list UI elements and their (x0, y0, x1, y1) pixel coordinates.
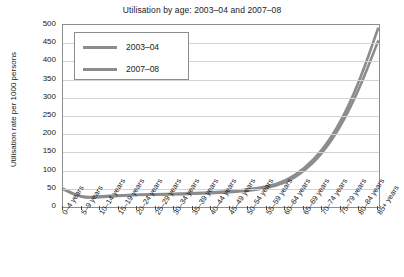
chart-figure: Utilisation by age: 2003–04 and 2007–08 … (0, 0, 404, 277)
chart-legend: 2003–042007–08 (74, 32, 189, 80)
legend-item[interactable]: 2003–04 (83, 39, 159, 55)
x-axis-tick-labels: 0–4 years5–9 years10–14 years15–19 years… (0, 0, 404, 277)
legend-line-swatch (83, 46, 117, 49)
legend-label: 2007–08 (126, 64, 159, 74)
legend-label: 2003–04 (126, 42, 159, 52)
legend-line-swatch (83, 68, 117, 71)
legend-item[interactable]: 2007–08 (83, 61, 159, 77)
